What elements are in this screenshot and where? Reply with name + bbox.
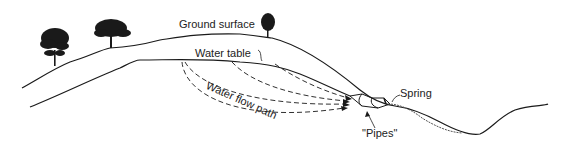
ground-surface-line <box>22 34 548 135</box>
water-table-line <box>30 60 350 108</box>
label-water-table: Water table <box>195 48 251 59</box>
spring-seep <box>388 104 462 133</box>
groundwater-diagram: Ground surface Water table Water flow pa… <box>0 0 566 147</box>
tree-middle <box>94 19 131 48</box>
label-ground-surface: Ground surface <box>179 19 255 30</box>
water-table-leader <box>258 50 262 61</box>
tree-left <box>40 28 69 66</box>
diagram-drawing <box>0 0 566 147</box>
tree-right <box>261 13 275 38</box>
label-spring: Spring <box>400 88 432 99</box>
pipes-leader-arrowhead <box>365 111 370 117</box>
pipes-drawing <box>350 94 390 108</box>
spring-leader <box>392 95 400 102</box>
flow-path-2 <box>232 62 346 101</box>
label-pipes: "Pipes" <box>362 128 397 139</box>
flow-arrowheads <box>341 95 352 111</box>
